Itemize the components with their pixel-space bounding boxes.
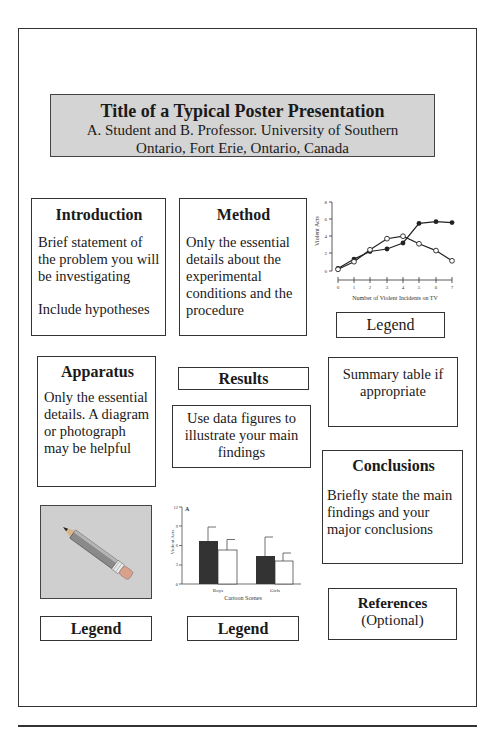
svg-text:0: 0 [325,269,328,274]
line-chart-xlabel: Number of Violent Incidents on TV [352,295,438,301]
apparatus-heading: Apparatus [44,363,151,381]
results-heading: Results [178,367,309,390]
bar-chart-ylabel: Violent Acts [170,530,175,555]
introduction-hypotheses: Include hypotheses [38,301,160,318]
svg-text:0: 0 [337,285,340,290]
poster-authors-line2: Ontario, Fort Erie, Ontario, Canada [51,139,434,157]
svg-text:Boys: Boys [213,588,223,593]
apparatus-photo [40,505,152,599]
svg-text:5: 5 [418,285,421,290]
bar-chart-legend: Legend [187,616,299,641]
svg-text:Girls: Girls [270,588,280,593]
svg-text:0: 0 [176,582,179,587]
conclusions-box: Conclusions Briefly state the main findi… [322,450,463,564]
pencil-icon [41,506,153,600]
conclusions-body: Briefly state the main findings and your… [327,487,460,538]
poster-authors-line1: A. Student and B. Professor. University … [51,121,434,139]
line-chart: Violent Acts 86420 0123 4567 Number of V… [310,196,460,304]
bar-chart-xlabel: Cartoon Scenes [224,595,262,601]
svg-text:6: 6 [435,285,438,290]
method-heading: Method [186,206,301,224]
svg-text:1: 1 [353,285,356,290]
bar-chart: Violent Acts A 129630 Boys Girls Cartoon… [163,502,303,604]
svg-text:6: 6 [176,543,179,548]
svg-text:12: 12 [174,505,179,510]
introduction-box: Introduction Brief statement of the prob… [31,198,166,336]
conclusions-heading: Conclusions [327,457,460,475]
references-box: References (Optional) [328,588,457,640]
method-box: Method Only the essential details about … [179,198,307,336]
svg-text:3: 3 [386,285,389,290]
summary-table-box: Summary table if appropriate [328,357,458,427]
references-note: (Optional) [329,612,456,629]
photo-legend: Legend [40,616,152,641]
results-body: Use data figures to illustrate your main… [172,405,311,468]
svg-text:9: 9 [176,524,179,529]
svg-text:4: 4 [402,285,405,290]
apparatus-box: Apparatus Only the essential details. A … [37,356,156,487]
svg-text:4: 4 [325,234,328,239]
svg-text:2: 2 [369,285,372,290]
poster-title-box: Title of a Typical Poster Presentation A… [50,94,435,157]
poster-title: Title of a Typical Poster Presentation [51,101,434,121]
svg-text:2: 2 [325,251,328,256]
line-chart-legend: Legend [336,312,445,338]
line-chart-ylabel: Violent Acts [314,215,320,245]
svg-text:7: 7 [451,285,454,290]
references-heading: References [329,595,456,612]
introduction-body: Brief statement of the problem you will … [38,234,160,285]
bottom-divider [18,725,477,727]
svg-text:6: 6 [325,217,328,222]
apparatus-body: Only the essential details. A diagram or… [44,389,151,457]
svg-text:3: 3 [176,562,179,567]
method-body: Only the essential details about the exp… [186,234,301,319]
bar-chart-panel-label: A [185,506,190,512]
introduction-heading: Introduction [38,206,160,224]
svg-text:8: 8 [325,200,328,205]
